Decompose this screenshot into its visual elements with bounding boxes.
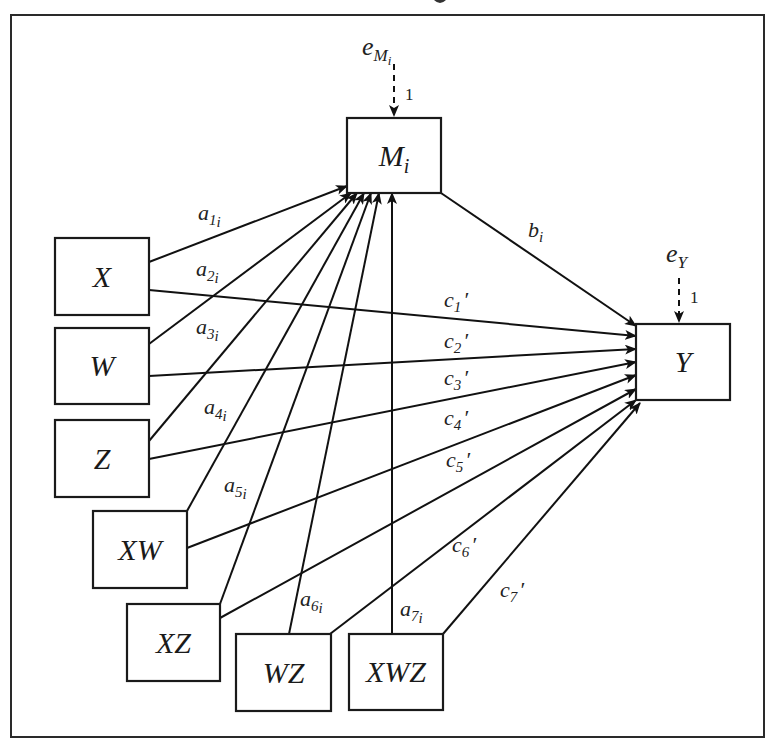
error-term-ey: eY xyxy=(666,239,689,272)
path-arrow-xz-to-m xyxy=(220,193,371,604)
path-arrow-m-to-y xyxy=(441,193,636,326)
variable-box-x: X xyxy=(55,238,149,315)
coefficient-label-c4: c4′ xyxy=(444,405,469,433)
coefficient-label-a5: a5i xyxy=(224,472,247,502)
coefficient-labels-layer: a1ia2ia3ia4ia5ia6ia7ibic1′c2′c3′c4′c5′c6… xyxy=(196,200,543,626)
path-arrow-xw-to-m xyxy=(187,193,364,511)
variable-box-xwz: XWZ xyxy=(349,634,443,710)
variable-box-w: W xyxy=(55,328,149,404)
coefficient-label-c5: c5′ xyxy=(446,447,471,475)
variable-label-w: W xyxy=(90,349,118,382)
coefficient-label-a1: a1i xyxy=(198,200,221,230)
coefficient-label-c7: c7′ xyxy=(500,577,525,605)
variable-box-y: Y xyxy=(636,324,730,400)
coefficient-label-c2: c2′ xyxy=(444,328,469,356)
coefficient-label-a3: a3i xyxy=(196,314,219,344)
coefficient-label-c1: c1′ xyxy=(444,287,469,315)
variable-box-z: Z xyxy=(55,420,149,497)
variable-label-xwz: XWZ xyxy=(365,655,426,688)
coefficient-label-a6: a6i xyxy=(300,586,323,616)
path-arrow-wz-to-y xyxy=(330,400,636,634)
variable-box-m: Mi xyxy=(347,118,441,193)
variable-label-xw: XW xyxy=(117,533,164,566)
variable-label-wz: WZ xyxy=(263,656,305,689)
path-diagram: eMi1eY1 MiYXWZXWXZWZXWZ a1ia2ia3ia4ia5ia… xyxy=(0,0,770,744)
coefficient-label-bi: bi xyxy=(528,217,543,245)
coefficient-label-c3: c3′ xyxy=(444,365,469,393)
variable-box-xz: XZ xyxy=(127,604,220,681)
path-arrow-xz-to-y xyxy=(220,389,636,618)
coefficient-label-a7: a7i xyxy=(400,596,423,626)
path-arrow-x-to-m xyxy=(149,186,347,262)
coefficient-label-a2: a2i xyxy=(196,256,219,286)
error-weight-ey: 1 xyxy=(690,288,699,307)
variable-label-xz: XZ xyxy=(155,626,191,659)
variable-label-z: Z xyxy=(94,442,111,475)
variable-label-x: X xyxy=(92,260,113,293)
error-term-em: eMi xyxy=(362,32,392,68)
variable-box-wz: WZ xyxy=(236,634,331,711)
error-weight-em: 1 xyxy=(405,85,414,104)
coefficient-label-a4: a4i xyxy=(204,394,227,424)
path-arrow-xw-to-y xyxy=(187,375,636,548)
clipped-caption-fragment xyxy=(434,0,446,3)
variable-box-xw: XW xyxy=(93,511,187,588)
coefficient-label-c6: c6′ xyxy=(452,532,477,560)
